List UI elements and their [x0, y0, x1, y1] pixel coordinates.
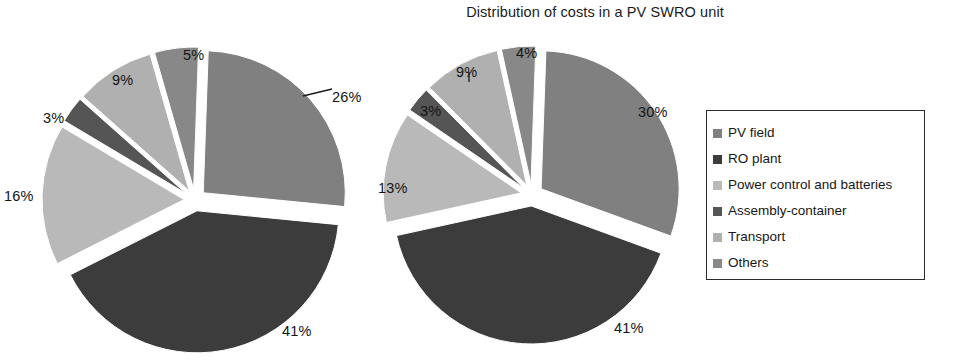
- right-label-assembly: 3%: [420, 103, 441, 119]
- legend: PV field RO plant Power control and batt…: [706, 110, 925, 280]
- right-label-transport: 9%: [456, 64, 477, 80]
- right-pie-chart: [360, 30, 710, 360]
- legend-label-pv-field: PV field: [728, 126, 775, 140]
- right-label-ro-plant: 41%: [614, 320, 644, 336]
- leader-line-pv-field: [303, 89, 332, 96]
- legend-item-transport[interactable]: Transport: [713, 224, 924, 250]
- legend-swatch-icon-pv-field: [713, 129, 722, 138]
- legend-label-power-control: Power control and batteries: [728, 178, 892, 192]
- chart-title: Distribution of costs in a PV SWRO unit: [0, 4, 954, 20]
- left-label-transport: 9%: [112, 72, 133, 88]
- pie-slice-pv-field[interactable]: [541, 51, 679, 236]
- left-label-ro-plant: 41%: [282, 323, 312, 339]
- legend-item-pv-field[interactable]: PV field: [713, 120, 924, 146]
- right-pie-svg: [360, 30, 710, 360]
- legend-item-ro-plant[interactable]: RO plant: [713, 146, 924, 172]
- legend-item-power-control[interactable]: Power control and batteries: [713, 172, 924, 198]
- left-label-assembly: 3%: [43, 110, 64, 126]
- left-label-power-control: 16%: [4, 188, 34, 204]
- legend-swatch-icon-others: [713, 259, 722, 268]
- pie-slice-pv-field[interactable]: [203, 51, 345, 207]
- right-label-power-control: 13%: [378, 180, 408, 196]
- legend-item-others[interactable]: Others: [713, 250, 924, 276]
- legend-label-transport: Transport: [728, 230, 785, 244]
- left-label-others: 5%: [183, 47, 204, 63]
- right-label-pv-field: 30%: [638, 104, 668, 120]
- legend-swatch-icon-transport: [713, 233, 722, 242]
- legend-label-ro-plant: RO plant: [728, 152, 781, 166]
- chart-title-text: Distribution of costs in a PV SWRO unit: [466, 4, 724, 20]
- left-pie-svg: [20, 34, 370, 364]
- left-pie-chart: [20, 34, 370, 364]
- pie-chart-figure: Distribution of costs in a PV SWRO unit …: [0, 0, 954, 364]
- right-label-others: 4%: [516, 45, 537, 61]
- legend-swatch-icon-ro-plant: [713, 155, 722, 164]
- left-label-pv-field: 26%: [332, 89, 362, 105]
- legend-label-assembly-container: Assembly-container: [728, 204, 847, 218]
- legend-swatch-icon-assembly-container: [713, 207, 722, 216]
- legend-label-others: Others: [728, 256, 769, 270]
- legend-item-assembly-container[interactable]: Assembly-container: [713, 198, 924, 224]
- legend-swatch-icon-power-control: [713, 181, 722, 190]
